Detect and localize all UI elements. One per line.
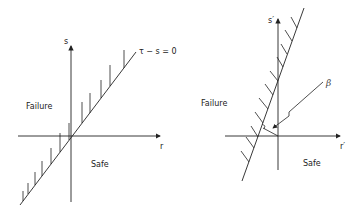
failure-label: Failure (26, 102, 52, 111)
reliability-diagrams: s r τ − s = 0 Failure Safe β s′ r′ (0, 0, 364, 215)
s-axis-label: s (64, 37, 68, 46)
safe-label: Safe (91, 160, 109, 169)
beta-arrow (273, 82, 323, 128)
beta-label: β (325, 78, 331, 88)
r-prime-axis-label: r′ (340, 142, 345, 151)
safe-label: Safe (303, 159, 321, 168)
left-diagram: s r τ − s = 0 Failure Safe (18, 37, 177, 205)
right-diagram: β s′ r′ Failure Safe (201, 8, 345, 181)
s-prime-axis-label: s′ (268, 16, 274, 25)
r-axis-label: r (160, 142, 164, 151)
perpendicular-line (263, 128, 278, 136)
limit-state-label: τ − s = 0 (139, 47, 177, 56)
limit-state-line (20, 52, 136, 205)
failure-hatching (241, 17, 297, 162)
failure-label: Failure (201, 99, 227, 108)
failure-hatching (23, 50, 124, 201)
